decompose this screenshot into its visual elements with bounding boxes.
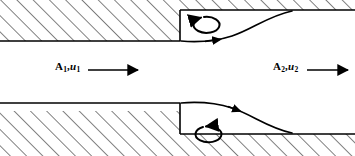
figure-canvas bbox=[0, 0, 355, 156]
upper-eddy-arc-arrow bbox=[193, 17, 219, 33]
upper-wall-hatched-region bbox=[0, 0, 355, 45]
upper-recirculation-eddy bbox=[193, 17, 219, 33]
lower-streamline-flow-arrow bbox=[228, 107, 240, 112]
inlet-area-symbol: A bbox=[55, 60, 63, 72]
inlet-flow-label: A1,u1 bbox=[55, 60, 80, 72]
sudden-expansion-figure: A1,u1 A2,u2 bbox=[0, 0, 355, 156]
inlet-area-subscript: 1 bbox=[63, 65, 67, 74]
upper-wall-hatch-fill bbox=[0, 0, 355, 45]
upper-streamline-group bbox=[181, 11, 292, 42]
outlet-area-symbol: A bbox=[273, 60, 281, 72]
outlet-flow-label: A2,u2 bbox=[273, 60, 298, 72]
outlet-velocity-subscript: 2 bbox=[294, 65, 298, 74]
outlet-area-subscript: 2 bbox=[281, 65, 285, 74]
upper-streamline-flow-arrow bbox=[205, 40, 220, 42]
inlet-velocity-subscript: 1 bbox=[76, 65, 80, 74]
separating-shear-layer-upper bbox=[181, 11, 292, 42]
